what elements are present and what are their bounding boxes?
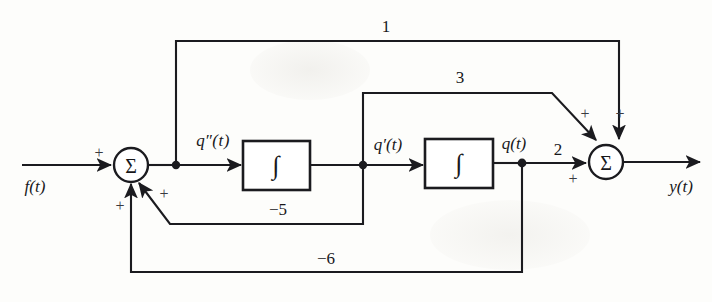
sign-output-left-plus: + [568, 171, 577, 187]
junction-dot-qpp [172, 161, 180, 169]
second-derivative-prime-part: ″(t) [205, 131, 230, 150]
output-signal-label: y(t) [669, 178, 693, 195]
second-derivative-base: q [196, 131, 205, 150]
junction-dot-qp [359, 161, 367, 169]
sign-input-plus: + [94, 145, 103, 161]
second-derivative-signal-label: q″(t) [196, 132, 230, 149]
gain-label-minus-5: −5 [269, 201, 287, 218]
summer-input-label: Σ [125, 156, 137, 176]
block-diagram-vector [0, 0, 712, 302]
integrator-1-label: ∫ [272, 153, 279, 179]
gain-label-2: 2 [554, 141, 563, 158]
gain-label-minus-6: −6 [317, 250, 335, 267]
sign-output-top-right-plus: + [615, 106, 624, 122]
block-diagram-canvas: ∫ ∫ Σ Σ f(t) q″(t) q′(t) q(t) y(t) 1 3 2… [0, 0, 712, 302]
summer-output-label: Σ [600, 153, 612, 173]
state-signal-label: q(t) [502, 135, 527, 152]
integrator-2-label: ∫ [455, 151, 462, 177]
sign-feedback-lower-left-plus: + [115, 198, 124, 214]
sign-output-top-left-plus: + [580, 106, 589, 122]
gain-label-3: 3 [456, 69, 465, 86]
gain-label-1: 1 [382, 18, 391, 35]
junction-dot-q [518, 159, 527, 168]
input-signal-label: f(t) [25, 178, 46, 195]
sign-feedback-lower-right-plus: + [159, 186, 168, 202]
first-derivative-signal-label: q′(t) [374, 136, 402, 153]
